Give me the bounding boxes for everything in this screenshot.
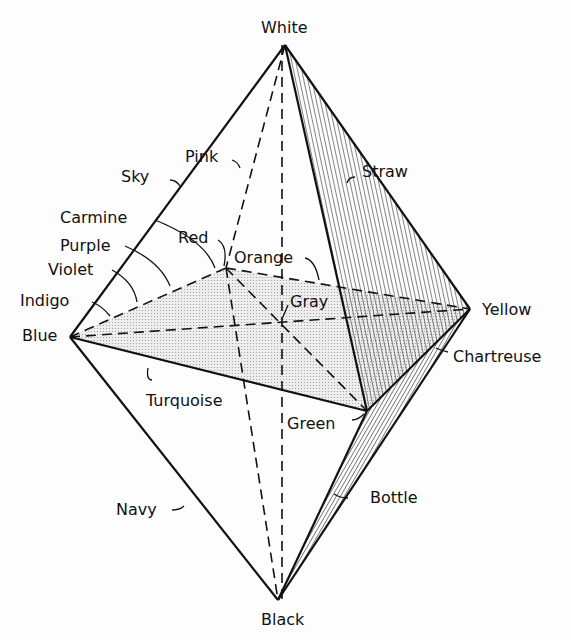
label-blue: Blue	[22, 328, 57, 344]
label-chartreuse: Chartreuse	[453, 349, 541, 365]
label-indigo: Indigo	[20, 293, 69, 309]
label-gray: Gray	[290, 294, 328, 310]
label-white: White	[261, 20, 308, 36]
label-green: Green	[287, 416, 335, 432]
label-navy: Navy	[116, 502, 157, 518]
octahedron-drawing	[0, 0, 571, 640]
color-solid-diagram: White Black Blue Yellow Sky Pink Straw C…	[0, 0, 571, 640]
label-turquoise: Turquoise	[146, 393, 223, 409]
label-black: Black	[261, 612, 304, 628]
label-bottle: Bottle	[370, 490, 418, 506]
label-pink: Pink	[185, 149, 218, 165]
label-red: Red	[178, 230, 208, 246]
label-purple: Purple	[60, 238, 111, 254]
label-straw: Straw	[362, 164, 408, 180]
label-carmine: Carmine	[60, 210, 127, 226]
label-yellow: Yellow	[482, 302, 531, 318]
label-orange: Orange	[234, 250, 293, 266]
label-violet: Violet	[48, 262, 93, 278]
label-sky: Sky	[121, 169, 149, 185]
